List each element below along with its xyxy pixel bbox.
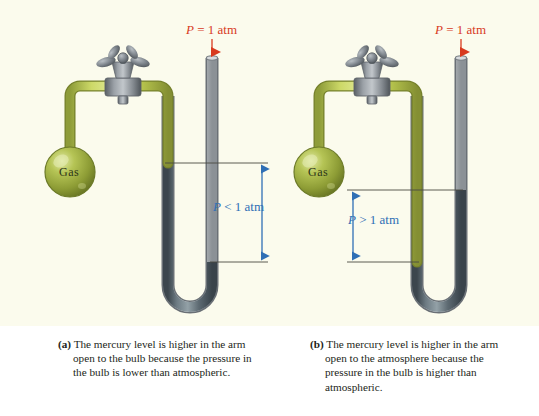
panel-a-caption-text: The mercury level is higher in the arm o…: [73, 338, 252, 378]
panel-a-atm-text: = 1 atm: [194, 22, 237, 37]
panel-b-tube-opening: [455, 56, 466, 60]
panel-a-pressure-symbol: P: [213, 199, 221, 214]
panel-a-bulb-label: Gas: [59, 165, 79, 180]
panel-b-u-tube: [417, 58, 461, 307]
panel-b-bulb-label: Gas: [308, 165, 328, 180]
panel-b-pressure-symbol: P: [348, 212, 356, 227]
manometer-diagram: [0, 0, 539, 326]
panel-b-caption-text: The mercury level is higher in the arm o…: [325, 338, 498, 393]
panel-b-caption-tag: (b): [310, 338, 324, 350]
panel-a-caption: (a) The mercury level is higher in the a…: [58, 337, 258, 380]
panel-a-atm-symbol: P: [186, 22, 194, 37]
panel-b-caption: (b) The mercury level is higher in the a…: [310, 337, 520, 394]
panel-b-atm-label: P = 1 atm: [435, 22, 486, 38]
panel-a-mercury: [168, 163, 212, 307]
panel-a-u-tube: [168, 58, 212, 307]
panel-a-stopcock: [95, 43, 151, 104]
panel-a-caption-tag: (a): [58, 338, 71, 350]
panel-a-atm-label: P = 1 atm: [186, 22, 237, 38]
panel-b-pressure-label: P > 1 atm: [348, 212, 399, 228]
panel-b-stopcock: [344, 43, 400, 104]
panel-a-pressure-text: < 1 atm: [221, 199, 264, 214]
panel-b-pressure-text: > 1 atm: [356, 212, 399, 227]
panel-a-tube-opening: [206, 56, 217, 60]
panel-b-atm-text: = 1 atm: [443, 22, 486, 37]
manometer-figure: P = 1 atm P = 1 atm Gas Gas P < 1 atm P …: [0, 0, 539, 416]
panel-b-atm-symbol: P: [435, 22, 443, 37]
panel-a-pressure-label: P < 1 atm: [213, 199, 264, 215]
